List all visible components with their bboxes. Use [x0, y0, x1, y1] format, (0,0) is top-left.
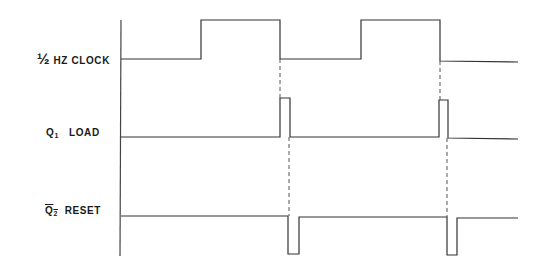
- time-axis: [120, 20, 121, 256]
- timing-dashed-lines: [280, 59, 447, 217]
- timing-diagram: [0, 0, 544, 273]
- clock-waveform: [121, 20, 518, 62]
- q2bar-reset-waveform: [121, 216, 518, 255]
- q1-load-waveform: [121, 98, 518, 139]
